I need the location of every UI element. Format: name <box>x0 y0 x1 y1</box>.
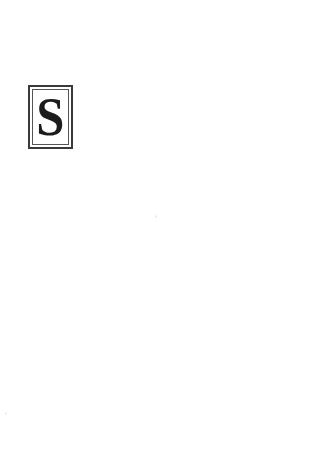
dropcap-inner-rule: S <box>32 89 69 145</box>
scan-artifact-speck <box>155 215 157 218</box>
decorative-dropcap-frame: S <box>28 85 73 149</box>
scan-artifact-speck <box>5 412 7 415</box>
dropcap-letter: S <box>36 90 64 144</box>
dropcap-field: S <box>33 90 68 144</box>
scanned-page: S <box>0 0 310 471</box>
